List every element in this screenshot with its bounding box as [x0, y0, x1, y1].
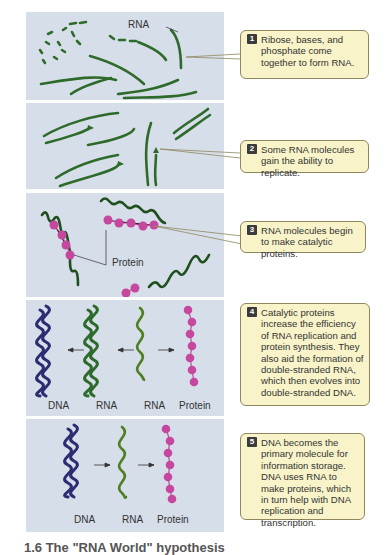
figure-caption: 1.6 The "RNA World" hypothesis	[24, 540, 225, 555]
step-description: Catalytic proteins increase the efficien…	[261, 307, 363, 398]
step-description: DNA becomes the primary molecule for inf…	[261, 437, 351, 528]
dna-rna-protein-evolution-illustration	[26, 300, 224, 416]
step-number-badge: 4	[247, 307, 257, 317]
step-number-badge: 3	[247, 225, 257, 235]
step-description: RNA molecules begin to make catalytic pr…	[261, 225, 353, 259]
step-number-badge: 1	[247, 34, 257, 44]
callout-step-1: 1 Ribose, bases, and phosphate come toge…	[240, 30, 369, 79]
step-description: Ribose, bases, and phosphate come togeth…	[261, 34, 354, 68]
protein-label: Protein	[112, 257, 144, 268]
protein-label: Protein	[179, 400, 211, 411]
dna-label: DNA	[74, 514, 95, 525]
single-rna-label: RNA	[144, 400, 165, 411]
step-description: Some RNA molecules gain the ability to r…	[261, 144, 354, 178]
step-number-badge: 5	[247, 437, 257, 447]
panel-step-4: DNA RNA RNA Protein	[26, 300, 224, 416]
callout-step-5: 5 DNA becomes the primary molecule for i…	[240, 433, 365, 520]
callout-step-2: 2 Some RNA molecules gain the ability to…	[240, 140, 369, 173]
double-rna-label: RNA	[96, 400, 117, 411]
callout-step-3: 3 RNA molecules begin to make catalytic …	[240, 221, 366, 253]
leader-line-3	[152, 222, 252, 252]
rna-label: RNA	[128, 19, 149, 30]
leader-line-2	[158, 145, 248, 165]
callout-step-4: 4 Catalytic proteins increase the effici…	[240, 303, 370, 406]
step-number-badge: 2	[247, 144, 257, 154]
rna-label: RNA	[122, 514, 143, 525]
dna-label: DNA	[48, 400, 69, 411]
panel-step-5: DNA RNA Protein	[26, 419, 224, 532]
protein-label: Protein	[157, 514, 189, 525]
